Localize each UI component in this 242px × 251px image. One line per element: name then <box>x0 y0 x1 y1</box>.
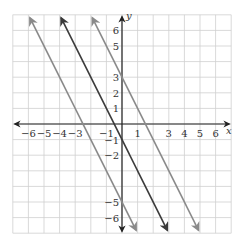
svg-text:5: 5 <box>197 128 203 139</box>
svg-text:−3: −3 <box>68 128 83 139</box>
svg-text:6: 6 <box>212 128 218 139</box>
svg-text:−6: −6 <box>21 128 36 139</box>
svg-text:−5: −5 <box>37 128 52 139</box>
svg-text:−4: −4 <box>52 128 67 139</box>
svg-text:−5: −5 <box>104 197 119 208</box>
svg-text:−2: −2 <box>104 150 119 161</box>
svg-text:3: 3 <box>166 128 172 139</box>
svg-text:5: 5 <box>113 41 119 52</box>
svg-text:2: 2 <box>113 88 119 99</box>
svg-text:1: 1 <box>134 128 140 139</box>
svg-text:1: 1 <box>113 103 119 114</box>
axes <box>15 17 229 231</box>
svg-text:6: 6 <box>113 25 119 36</box>
svg-text:4: 4 <box>181 128 187 139</box>
coordinate-plane-chart: −6−5−4−3−11345665321−1−2−5−6 x y <box>0 0 242 251</box>
y-axis-label: y <box>125 10 132 21</box>
svg-text:−6: −6 <box>104 213 119 224</box>
svg-text:−1: −1 <box>104 135 119 146</box>
svg-text:3: 3 <box>113 72 119 83</box>
x-axis-label: x <box>226 125 232 136</box>
